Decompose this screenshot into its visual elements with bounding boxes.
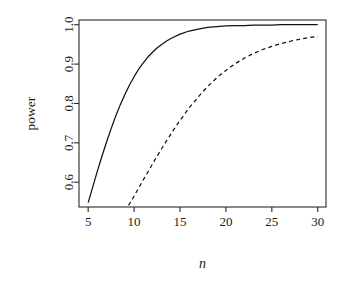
- solid-curve: [88, 25, 318, 203]
- chart-figure: 51015202530 0.60.70.80.91.0 power n: [0, 0, 344, 286]
- y-axis-tick-labels: 0.60.70.80.91.0: [62, 17, 77, 191]
- plot-frame: [79, 20, 326, 207]
- x-tick-label: 10: [128, 214, 141, 229]
- y-axis-title: power: [23, 96, 38, 130]
- x-tick-label: 5: [85, 214, 92, 229]
- power-curve-plot: 51015202530 0.60.70.80.91.0 power n: [0, 0, 344, 286]
- x-axis-title: n: [199, 256, 206, 271]
- plot-box: [79, 20, 326, 207]
- y-tick-label: 0.7: [62, 134, 77, 151]
- y-tick-label: 0.6: [62, 174, 77, 191]
- x-axis-ticks: [88, 207, 318, 212]
- y-tick-label: 1.0: [62, 17, 77, 33]
- y-tick-label: 0.8: [62, 95, 77, 111]
- y-tick-label: 0.9: [62, 56, 77, 72]
- data-series-group: [88, 25, 318, 206]
- dashed-curve: [129, 37, 318, 206]
- x-tick-label: 20: [219, 214, 232, 229]
- x-tick-label: 15: [174, 214, 187, 229]
- x-axis-tick-labels: 51015202530: [85, 214, 324, 229]
- x-tick-label: 30: [311, 214, 324, 229]
- x-tick-label: 25: [265, 214, 278, 229]
